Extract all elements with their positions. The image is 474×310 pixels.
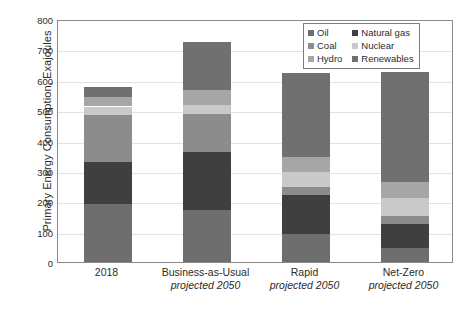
bar-segment[interactable] <box>282 195 330 234</box>
legend-item[interactable]: Natural gas <box>352 27 413 39</box>
y-tick-label: 500 <box>19 106 53 117</box>
chart-legend: OilNatural gasCoalNuclearHydroRenewables <box>303 23 420 69</box>
bar-segment[interactable] <box>381 224 429 248</box>
y-tick-label: 700 <box>19 45 53 56</box>
y-tick-label: 400 <box>19 137 53 148</box>
bar-segment[interactable] <box>84 115 132 163</box>
legend-swatch-icon <box>352 43 358 49</box>
x-axis-tick-labels: 2018Business-as-Usualprojected 2050Rapid… <box>57 266 453 310</box>
bar-segment[interactable] <box>282 234 330 262</box>
bar-segment[interactable] <box>282 172 330 187</box>
y-tick-label: 800 <box>19 15 53 26</box>
y-tick-label: 300 <box>19 167 53 178</box>
legend-item[interactable]: Hydro <box>308 53 342 65</box>
bar-segment[interactable] <box>381 198 429 216</box>
bar-segment[interactable] <box>183 210 231 262</box>
bar-segment[interactable] <box>84 97 132 106</box>
stacked-bar-chart: Primary Energy Consumption, Exajoules 01… <box>0 0 474 310</box>
bar-column[interactable] <box>84 19 132 262</box>
bar-segment[interactable] <box>381 72 429 181</box>
legend-label: Renewables <box>361 53 413 65</box>
bar-segment[interactable] <box>84 107 132 115</box>
y-tick-label: 200 <box>19 197 53 208</box>
legend-swatch-icon <box>352 30 358 36</box>
bar-segment[interactable] <box>84 162 132 204</box>
bar-segment[interactable] <box>84 204 132 262</box>
y-tick-label: 100 <box>19 228 53 239</box>
legend-swatch-icon <box>308 56 314 62</box>
bar-segment[interactable] <box>183 152 231 210</box>
legend-swatch-icon <box>308 43 314 49</box>
bar-segment[interactable] <box>381 182 429 199</box>
bar-segment[interactable] <box>84 87 132 97</box>
bar-segment[interactable] <box>183 42 231 91</box>
bar-segment[interactable] <box>381 248 429 262</box>
legend-label: Hydro <box>317 53 342 65</box>
legend-item[interactable]: Nuclear <box>352 40 413 52</box>
y-tick-label: 600 <box>19 76 53 87</box>
legend-label: Oil <box>317 27 329 39</box>
bar-segment[interactable] <box>381 216 429 224</box>
x-tick-label-primary: Net-Zero <box>338 266 470 279</box>
bar-segment[interactable] <box>183 90 231 104</box>
bar-segment[interactable] <box>282 157 330 172</box>
legend-item[interactable]: Renewables <box>352 53 413 65</box>
x-tick-label-sub: projected 2050 <box>338 279 470 292</box>
legend-label: Natural gas <box>361 27 410 39</box>
legend-label: Coal <box>317 40 337 52</box>
bar-segment[interactable] <box>183 114 231 152</box>
legend-label: Nuclear <box>361 40 394 52</box>
bar-segment[interactable] <box>183 105 231 114</box>
bar-column[interactable] <box>183 19 231 262</box>
bar-segment[interactable] <box>282 187 330 195</box>
legend-item[interactable]: Oil <box>308 27 342 39</box>
legend-item[interactable]: Coal <box>308 40 342 52</box>
legend-swatch-icon <box>352 56 358 62</box>
bar-segment[interactable] <box>282 73 330 157</box>
legend-swatch-icon <box>308 30 314 36</box>
x-tick-label: Net-Zeroprojected 2050 <box>338 266 470 292</box>
